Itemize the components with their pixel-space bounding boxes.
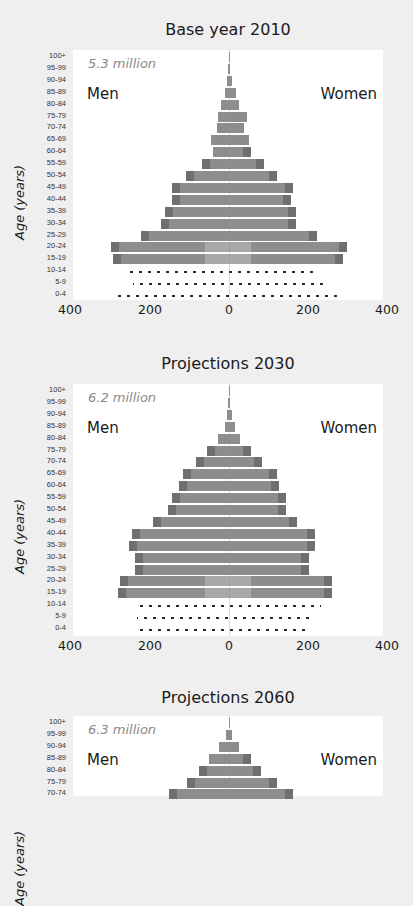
- bar-center-highlight: [205, 242, 251, 252]
- age-tick-label: 20-24: [47, 241, 66, 250]
- age-tick-label: 75-79: [47, 111, 66, 120]
- bar-women-edge: [307, 541, 315, 551]
- bar-men: [187, 778, 229, 788]
- age-tick-label: 60-64: [47, 480, 66, 489]
- bar-women-edge: [335, 254, 343, 264]
- bar-men-edge: [135, 553, 143, 563]
- bar-women: [229, 446, 251, 456]
- bar-men: [209, 754, 229, 764]
- bar-women-edge: [301, 565, 309, 575]
- age-tick-label: 85-89: [47, 753, 66, 762]
- age-tick-label: 10-14: [47, 599, 66, 608]
- bar-center-highlight: [205, 588, 251, 598]
- bar-women-edge: [285, 789, 293, 799]
- bar-women: [229, 231, 317, 241]
- projected-cohort-dots: [137, 612, 315, 622]
- age-tick-label: 45-49: [47, 516, 66, 525]
- bar-women: [229, 766, 261, 776]
- total-population-label: 6.2 million: [88, 390, 156, 405]
- age-tick-label: 85-89: [47, 87, 66, 96]
- bar-women: [229, 159, 264, 169]
- men-label: Men: [87, 85, 119, 103]
- x-tick-label: 400: [50, 638, 90, 653]
- bar-men-edge: [113, 254, 121, 264]
- bar-women: [229, 100, 239, 110]
- bar-women-edge: [285, 183, 293, 193]
- bar-men: [202, 159, 229, 169]
- bar-women-edge: [309, 231, 317, 241]
- bar-men-edge: [135, 565, 143, 575]
- age-tick-label: 75-79: [47, 445, 66, 454]
- age-tick-label: 50-54: [47, 504, 66, 513]
- bar-men-edge: [172, 195, 180, 205]
- women-label: Women: [321, 85, 377, 103]
- bar-men: [129, 541, 229, 551]
- age-tick-label: 45-49: [47, 182, 66, 191]
- bar-women: [229, 147, 251, 157]
- bar-men: [161, 219, 229, 229]
- bar-men: [153, 517, 229, 527]
- center-axis-line: [229, 384, 230, 636]
- bar-women: [229, 481, 279, 491]
- age-tick-label: 65-69: [47, 468, 66, 477]
- x-tick-label: 400: [50, 302, 90, 317]
- bar-men: [211, 135, 229, 145]
- total-population-label: 5.3 million: [88, 56, 156, 71]
- age-tick-label: 85-89: [47, 421, 66, 430]
- bar-men: [213, 147, 229, 157]
- bar-women-edge: [324, 576, 332, 586]
- bar-women: [229, 219, 296, 229]
- bar-women-edge: [269, 171, 277, 181]
- bar-men: [141, 231, 229, 241]
- bar-men-edge: [111, 242, 119, 252]
- age-tick-label: 65-69: [47, 134, 66, 143]
- bar-women-edge: [243, 446, 251, 456]
- age-tick-label: 50-54: [47, 170, 66, 179]
- bar-women-edge: [278, 493, 286, 503]
- age-tick-label: 30-34: [47, 552, 66, 561]
- bar-center-highlight: [205, 576, 251, 586]
- bar-women-edge: [301, 553, 309, 563]
- women-label: Women: [321, 419, 377, 437]
- bar-women-edge: [269, 469, 277, 479]
- bar-women-edge: [256, 159, 264, 169]
- plot-area: 6.2 millionMenWomen: [73, 384, 383, 636]
- bar-women-edge: [289, 517, 297, 527]
- age-tick-label: 30-34: [47, 218, 66, 227]
- bar-women-edge: [339, 242, 347, 252]
- bar-men: [172, 195, 229, 205]
- age-tick-label: 0-4: [55, 289, 66, 298]
- bar-men: [218, 434, 229, 444]
- bar-women-edge: [243, 754, 251, 764]
- age-tick-label: 25-29: [47, 564, 66, 573]
- age-tick-label: 75-79: [47, 777, 66, 786]
- bar-women-edge: [288, 219, 296, 229]
- bar-men-edge: [118, 588, 126, 598]
- bar-women: [229, 207, 296, 217]
- age-tick-label: 80-84: [47, 765, 66, 774]
- bar-women: [229, 553, 309, 563]
- bar-men-edge: [187, 778, 195, 788]
- y-axis-title: Age (years): [12, 831, 27, 906]
- total-population-label: 6.3 million: [88, 722, 156, 737]
- bar-men-edge: [132, 529, 140, 539]
- chart-title: Base year 2010: [73, 20, 383, 39]
- bar-men-edge: [141, 231, 149, 241]
- age-tick-label: 5-9: [55, 611, 66, 620]
- bar-men: [196, 457, 229, 467]
- y-axis-title: Age (years): [12, 165, 27, 240]
- men-label: Men: [87, 419, 119, 437]
- bar-women: [229, 565, 309, 575]
- bar-women: [229, 778, 277, 788]
- age-tick-label: 55-59: [47, 158, 66, 167]
- bar-men: [179, 481, 229, 491]
- women-label: Women: [321, 751, 377, 769]
- bar-men-edge: [183, 469, 191, 479]
- plot-area: 5.3 millionMenWomen: [73, 50, 383, 300]
- bar-women-edge: [283, 195, 291, 205]
- bar-women-edge: [307, 529, 315, 539]
- projected-cohort-dots: [127, 266, 318, 276]
- bar-men: [207, 446, 229, 456]
- bar-men-edge: [202, 159, 210, 169]
- bar-women: [229, 541, 315, 551]
